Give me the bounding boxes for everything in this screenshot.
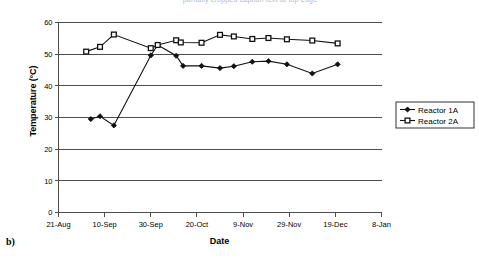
x-tick-label-10-Sep: 10-Sep bbox=[93, 220, 117, 229]
datapoint-reactor-2a-14 bbox=[335, 41, 340, 46]
legend-marker-open-square-icon bbox=[405, 118, 410, 123]
y-tick-label-20: 20 bbox=[44, 145, 52, 154]
x-tick-label-30-Sep: 30-Sep bbox=[139, 220, 163, 229]
y-axis-title: Temperature (°C) bbox=[28, 41, 38, 161]
x-tick-label-20-Oct: 20-Oct bbox=[186, 220, 209, 229]
datapoint-reactor-2a-4 bbox=[155, 43, 160, 48]
x-axis-title: Date bbox=[58, 236, 381, 246]
y-tick-label-0: 0 bbox=[48, 208, 52, 217]
x-tick-label-21-Aug: 21-Aug bbox=[46, 220, 70, 229]
panel-label: b) bbox=[6, 236, 15, 247]
x-tick-label-19-Dec: 19-Dec bbox=[323, 220, 347, 229]
series-line-reactor-1a bbox=[91, 45, 338, 125]
legend-label-reactor-2a: Reactor 2A bbox=[418, 117, 459, 126]
datapoint-reactor-2a-1 bbox=[98, 44, 103, 49]
datapoint-reactor-2a-13 bbox=[310, 38, 315, 43]
y-tick-label-50: 50 bbox=[44, 50, 52, 59]
series-line-reactor-2a bbox=[86, 35, 337, 52]
datapoint-reactor-1a-9 bbox=[231, 64, 236, 69]
datapoint-reactor-1a-7 bbox=[199, 63, 204, 68]
datapoint-reactor-2a-9 bbox=[231, 34, 236, 39]
datapoint-reactor-2a-10 bbox=[250, 37, 255, 42]
x-tick-label-29-Nov: 29-Nov bbox=[277, 220, 301, 229]
datapoint-reactor-2a-12 bbox=[285, 37, 290, 42]
datapoint-reactor-2a-8 bbox=[218, 32, 223, 37]
datapoint-reactor-2a-0 bbox=[84, 49, 89, 54]
y-tick-label-40: 40 bbox=[44, 82, 52, 91]
datapoint-reactor-1a-13 bbox=[310, 71, 315, 76]
datapoint-reactor-1a-12 bbox=[284, 62, 289, 67]
datapoint-reactor-1a-11 bbox=[266, 59, 271, 64]
datapoint-reactor-2a-11 bbox=[266, 36, 271, 41]
x-tick-label-9-Nov: 9-Nov bbox=[233, 220, 253, 229]
y-tick-label-10: 10 bbox=[44, 177, 52, 186]
y-tick-label-60: 60 bbox=[44, 18, 52, 27]
datapoint-reactor-1a-14 bbox=[335, 62, 340, 67]
x-tick-label-8-Jan: 8-Jan bbox=[372, 220, 391, 229]
temperature-line-chart: 010203040506021-Aug10-Sep30-Sep20-Oct9-N… bbox=[0, 0, 479, 263]
datapoint-reactor-1a-8 bbox=[217, 66, 222, 71]
datapoint-reactor-2a-3 bbox=[148, 46, 153, 51]
datapoint-reactor-2a-2 bbox=[111, 32, 116, 37]
figure-panel: partially cropped caption text at top ed… bbox=[0, 0, 479, 263]
y-tick-label-30: 30 bbox=[44, 113, 52, 122]
legend-label-reactor-1a: Reactor 1A bbox=[418, 106, 459, 115]
datapoint-reactor-2a-7 bbox=[199, 40, 204, 45]
datapoint-reactor-2a-6 bbox=[178, 40, 183, 45]
datapoint-reactor-1a-10 bbox=[250, 59, 255, 64]
